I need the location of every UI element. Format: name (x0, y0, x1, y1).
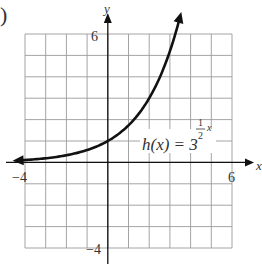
y-tick-6: 6 (91, 29, 98, 44)
x-tick-neg4: −4 (12, 170, 27, 185)
curve-arrow-left-icon (13, 155, 24, 165)
function-exponent-numerator: 1 (198, 117, 203, 128)
x-axis-arrow-icon (245, 158, 254, 166)
function-label-lhs: h(x) = 3 (142, 135, 198, 154)
y-axis-label: y (102, 1, 110, 16)
function-exponent-variable: x (206, 122, 212, 133)
x-axis-label: x (255, 158, 262, 173)
problem-label: ) (0, 2, 7, 27)
curve-arrow-up-icon (174, 12, 184, 24)
x-tick-6: 6 (228, 170, 235, 185)
y-tick-neg4: −4 (86, 242, 101, 257)
exponential-graph: ) y x 6 −4 −4 6 h(x) = 3 1 2 x (0, 0, 262, 264)
function-exponent-denominator: 2 (198, 130, 203, 141)
